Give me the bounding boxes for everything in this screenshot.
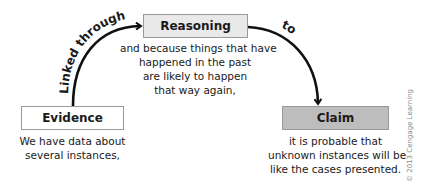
- reasoning-description-line: and because things that have: [120, 41, 270, 55]
- claim-label: Claim: [317, 111, 355, 125]
- reasoning-description-line: happened in the past: [120, 55, 270, 69]
- evidence-label: Evidence: [42, 111, 103, 125]
- claim-description-line: unknown instances will be: [268, 148, 403, 162]
- evidence-box: Evidence: [21, 106, 124, 130]
- edge-label-linked-through: Linked through: [57, 8, 127, 94]
- claim-description-line: it is probable that: [268, 134, 403, 148]
- claim-description-line: like the cases presented.: [268, 162, 403, 176]
- copyright-notice: © 2013 Cengage Learning: [404, 92, 416, 182]
- evidence-description-line: several instances,: [12, 148, 133, 162]
- claim-box: Claim: [282, 106, 389, 130]
- reasoning-label: Reasoning: [160, 19, 231, 33]
- claim-description: it is probable that unknown instances wi…: [268, 134, 403, 176]
- reasoning-box: Reasoning: [143, 14, 248, 38]
- edge-label-to: to: [280, 18, 299, 37]
- reasoning-description-line: are likely to happen: [120, 69, 270, 83]
- reasoning-description-line: that way again,: [120, 83, 270, 97]
- reasoning-description: and because things that have happened in…: [120, 41, 270, 97]
- evidence-description-line: We have data about: [12, 134, 133, 148]
- evidence-description: We have data about several instances,: [12, 134, 133, 162]
